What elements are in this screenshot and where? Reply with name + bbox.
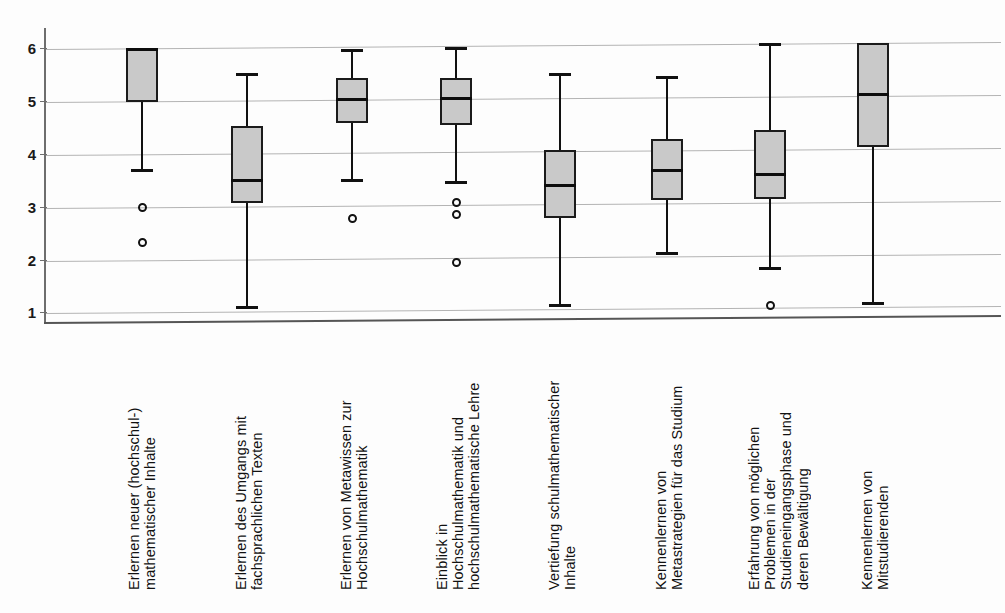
lower-whisker-cap: [445, 181, 467, 184]
outlier-point: [452, 258, 461, 267]
y-tick-mark-6: [40, 48, 47, 49]
y-tick-label-6: 6: [18, 41, 36, 56]
lower-whisker-line: [666, 200, 668, 254]
box-iqr-rect: [754, 130, 786, 199]
median-line: [126, 48, 158, 51]
median-line: [651, 169, 683, 172]
lower-whisker-line: [141, 102, 143, 171]
lower-whisker-line: [455, 125, 457, 183]
box-iqr-rect: [126, 49, 158, 102]
lower-whisker-line: [351, 123, 353, 181]
box-iqr-rect: [231, 126, 263, 204]
category-label-1: Erlernen neuer (hochschul-) mathematisch…: [126, 332, 158, 590]
category-label-3: Erlernen von Metawissen zur Hochschulmat…: [338, 332, 370, 590]
upper-whisker-line: [351, 49, 353, 78]
median-line: [440, 97, 472, 100]
upper-whisker-line: [246, 73, 248, 126]
gridline-3: [46, 201, 1001, 209]
upper-whisker-cap: [236, 73, 258, 76]
lower-whisker-cap: [549, 304, 571, 307]
lower-whisker-cap: [656, 252, 678, 255]
outlier-point: [452, 198, 461, 207]
category-label-8: Kennenlernen von Mitstudierenden: [859, 332, 891, 590]
lower-whisker-cap: [862, 302, 884, 305]
upper-whisker-cap: [341, 49, 363, 52]
outlier-point: [766, 301, 775, 310]
upper-whisker-cap: [759, 43, 781, 46]
y-tick-mark-4: [40, 154, 47, 155]
upper-whisker-cap: [445, 47, 467, 50]
y-tick-mark-5: [40, 101, 47, 102]
x-axis-line: [44, 315, 1001, 324]
outlier-point: [452, 210, 461, 219]
median-line: [754, 173, 786, 176]
lower-whisker-cap: [341, 179, 363, 182]
upper-whisker-line: [769, 43, 771, 130]
lower-whisker-line: [769, 199, 771, 270]
y-tick-label-5: 5: [18, 94, 36, 109]
upper-whisker-line: [666, 76, 668, 139]
y-tick-label-2: 2: [18, 253, 36, 268]
lower-whisker-cap: [236, 306, 258, 309]
lower-whisker-cap: [759, 267, 781, 270]
y-axis-line: [44, 28, 46, 323]
box-iqr-rect: [440, 78, 472, 124]
lower-whisker-line: [559, 218, 561, 306]
category-label-5: Vertiefung schulmathematischer Inhalte: [546, 332, 578, 590]
y-tick-label-4: 4: [18, 147, 36, 162]
category-label-4: Einblick in Hochschulmathematik und hoch…: [434, 332, 483, 590]
gridline-4: [46, 148, 1001, 156]
outlier-point: [348, 214, 357, 223]
median-line: [336, 98, 368, 101]
median-line: [544, 184, 576, 187]
y-tick-mark-2: [40, 260, 47, 261]
category-label-2: Erlernen des Umgangs mit fachsprachliche…: [233, 332, 265, 590]
upper-whisker-line: [559, 73, 561, 150]
upper-whisker-line: [455, 47, 457, 79]
upper-whisker-cap: [656, 76, 678, 79]
gridline-1: [46, 306, 1001, 314]
y-tick-label-3: 3: [18, 200, 36, 215]
boxplot-figure: 123456 Erlernen neuer (hochschul-) mathe…: [0, 0, 1005, 613]
y-tick-label-1: 1: [18, 305, 36, 320]
y-tick-mark-1: [40, 312, 47, 313]
lower-whisker-cap: [131, 169, 153, 172]
lower-whisker-line: [872, 147, 874, 304]
upper-whisker-cap: [549, 73, 571, 76]
category-label-6: Kennenlernen von Metastrategien für das …: [653, 332, 685, 590]
category-label-7: Erfahrung von möglichen Problemen in der…: [746, 332, 811, 590]
gridline-2: [46, 253, 1001, 261]
outlier-point: [138, 238, 147, 247]
outlier-point: [138, 203, 147, 212]
median-line: [857, 93, 889, 96]
y-tick-mark-3: [40, 207, 47, 208]
lower-whisker-line: [246, 203, 248, 308]
median-line: [231, 179, 263, 182]
